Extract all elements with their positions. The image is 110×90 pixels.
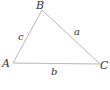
triangle-shape: [13, 10, 100, 64]
triangle-diagram: A B C c a b: [0, 0, 110, 90]
vertex-label-a: A: [1, 57, 10, 70]
side-label-b: b: [51, 66, 57, 77]
side-label-a: a: [74, 26, 80, 37]
vertex-label-b: B: [35, 0, 44, 12]
side-label-c: c: [18, 31, 24, 42]
vertex-label-c: C: [100, 59, 109, 72]
